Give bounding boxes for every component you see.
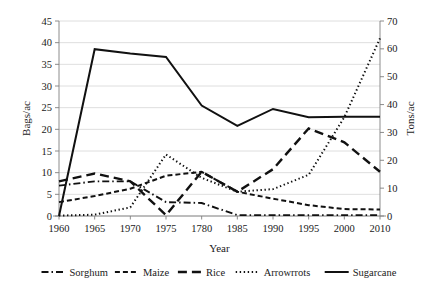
- x-tick-label: 1975: [156, 223, 177, 234]
- chart-figure: 051015202530354045 010203040506070 19601…: [0, 0, 441, 286]
- x-tick-label: 1990: [263, 223, 284, 234]
- y2-tick-label: 20: [387, 155, 398, 166]
- x-tick-label: 1965: [84, 223, 105, 234]
- y2-tick-label: 0: [387, 211, 392, 222]
- x-tick-label: 1960: [49, 223, 70, 234]
- x-tick-label: 2000: [334, 223, 355, 234]
- line-chart: 051015202530354045 010203040506070 19601…: [0, 0, 441, 286]
- x-tick-label: 1985: [227, 223, 248, 234]
- x-tick-label: 1995: [298, 223, 319, 234]
- y-tick-label: 15: [42, 146, 53, 157]
- y2-tick-label: 40: [387, 99, 398, 110]
- x-tick-label: 2010: [370, 223, 391, 234]
- x-tick-label: 1780: [191, 223, 212, 234]
- legend-label-maize: Maize: [143, 267, 170, 278]
- y2-tick-label: 50: [387, 71, 398, 82]
- y-tick-label: 25: [42, 102, 53, 113]
- y2-tick-label: 10: [387, 183, 398, 194]
- legend-label-sorghum: Sorghum: [70, 267, 108, 278]
- y-tick-label: 40: [42, 37, 53, 48]
- y2-tick-label: 30: [387, 127, 398, 138]
- y-tick-label: 5: [47, 189, 52, 200]
- x-tick-label: 1970: [120, 223, 141, 234]
- legend-label-rice: Rice: [206, 267, 226, 278]
- y2-tick-label: 60: [387, 43, 398, 54]
- y-axis-title: Bags/ac: [20, 101, 32, 136]
- y-tick-label: 30: [42, 81, 53, 92]
- y-tick-label: 0: [47, 211, 52, 222]
- legend-label-sugarcane: Sugarcane: [353, 267, 397, 278]
- y-tick-label: 35: [42, 59, 53, 70]
- y-tick-label: 20: [42, 124, 53, 135]
- x-axis-title: Year: [209, 242, 230, 254]
- y-tick-label: 10: [42, 167, 53, 178]
- y-tick-label: 45: [42, 16, 53, 27]
- y2-axis-title: Tons/ac: [404, 101, 416, 135]
- y2-tick-label: 70: [387, 16, 398, 27]
- legend-label-arrowrrots: Arrowrrots: [264, 267, 311, 278]
